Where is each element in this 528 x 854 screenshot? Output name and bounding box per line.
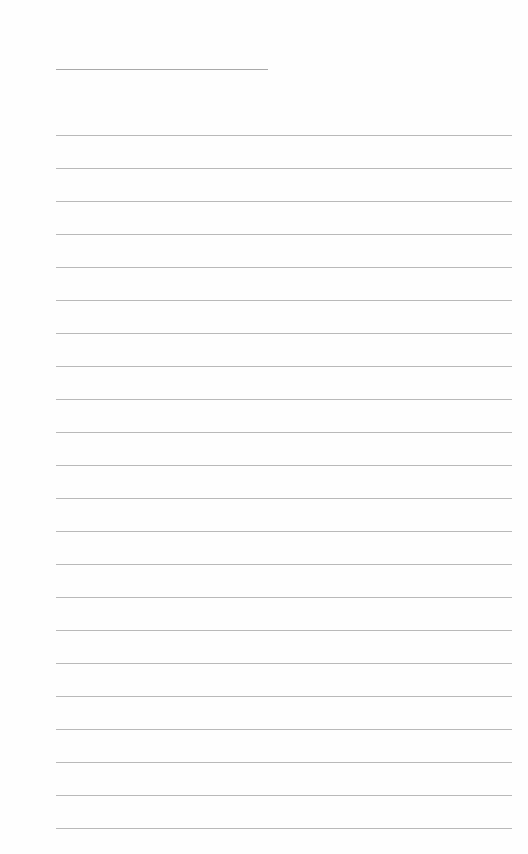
- ruled-line: [56, 135, 512, 136]
- ruled-line: [56, 729, 512, 730]
- ruled-line: [56, 762, 512, 763]
- ruled-line: [56, 564, 512, 565]
- ruled-line: [56, 663, 512, 664]
- ruled-line: [56, 267, 512, 268]
- ruled-line: [56, 234, 512, 235]
- ruled-line: [56, 432, 512, 433]
- ruled-line: [56, 795, 512, 796]
- ruled-line: [56, 696, 512, 697]
- ruled-line: [56, 366, 512, 367]
- ruled-line: [56, 300, 512, 301]
- ruled-line: [56, 498, 512, 499]
- ruled-line: [56, 630, 512, 631]
- ruled-line: [56, 531, 512, 532]
- title-line: [56, 69, 268, 70]
- ruled-line: [56, 333, 512, 334]
- lined-paper-page: [0, 0, 528, 854]
- ruled-line: [56, 597, 512, 598]
- ruled-line: [56, 168, 512, 169]
- ruled-line: [56, 201, 512, 202]
- ruled-line: [56, 828, 512, 829]
- ruled-line: [56, 399, 512, 400]
- ruled-line: [56, 465, 512, 466]
